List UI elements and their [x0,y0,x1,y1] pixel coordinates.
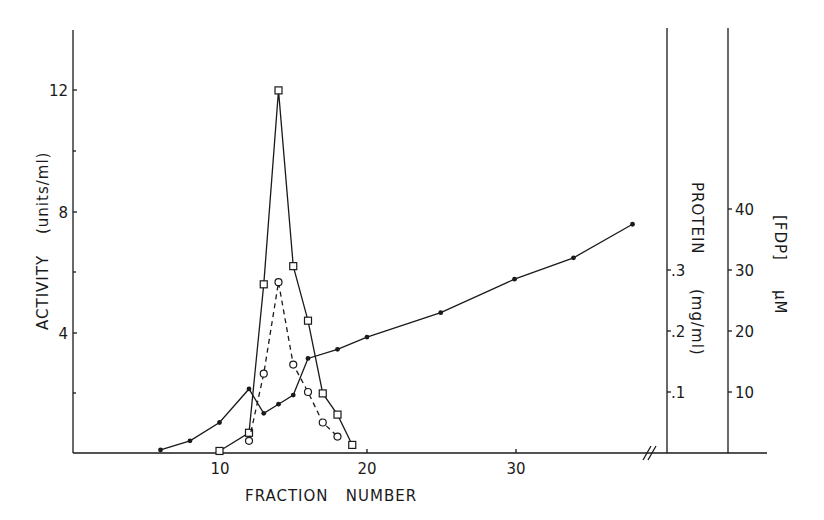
fdp-title-main: [FDP] [771,215,789,261]
circle-marker-icon [305,389,312,396]
series-fdp [158,222,635,453]
protein-tick-labels: .1 .2 .3 [671,262,685,402]
circle-marker-icon [290,361,297,368]
protein-title-main: PROTEIN [688,182,706,255]
square-marker-icon [349,441,356,448]
circle-marker-icon [260,370,267,377]
circle-marker-icon [334,433,341,440]
circle-marker-icon [319,419,326,426]
square-marker-icon [305,317,312,324]
dot-marker-icon [261,411,266,416]
square-marker-icon [319,390,326,397]
dot-marker-icon [306,356,311,361]
left-y-title: ACTIVITY (units/ml) [34,152,52,330]
x-tick-labels: 10 20 30 [210,460,525,478]
axes [73,28,767,460]
x-tick-20: 20 [357,460,376,478]
fdp-title-unit: µM [771,290,789,315]
chart: 12 8 4 10 20 30 .1 .2 .3 10 20 30 40 ACT… [0,0,824,520]
dot-marker-icon [438,310,443,315]
dot-marker-icon [247,387,252,392]
protein-tick-3: .3 [671,262,685,280]
dot-marker-icon [188,438,193,443]
dot-marker-icon [630,222,635,227]
dot-marker-icon [335,347,340,352]
protein-tick-2: .2 [671,323,685,341]
fdp-tick-30: 30 [735,262,754,280]
protein-tick-1: .1 [671,384,685,402]
protein-title-unit: (mg/ml) [688,289,706,356]
left-y-title-unit: (units/ml) [34,152,52,234]
left-y-title-main: ACTIVITY [34,255,52,330]
y-tick-4: 4 [58,325,68,343]
dot-marker-icon [217,420,222,425]
fdp-tick-10: 10 [735,384,754,402]
x-axis-title: FRACTION NUMBER [245,487,417,505]
circle-marker-icon [275,279,282,286]
series-line [220,90,353,451]
dot-marker-icon [291,393,296,398]
square-marker-icon [275,87,282,94]
dot-marker-icon [365,335,370,340]
series-layer [158,87,635,455]
x-tick-10: 10 [210,460,229,478]
y-tick-12: 12 [49,82,68,100]
protein-title: PROTEIN (mg/ml) [688,182,706,356]
series-protein [246,279,342,445]
square-marker-icon [334,411,341,418]
square-marker-icon [216,447,223,454]
fdp-tick-40: 40 [735,201,754,219]
fdp-title: [FDP] µM [771,215,789,315]
fdp-tick-20: 20 [735,323,754,341]
dot-marker-icon [158,448,163,453]
series-line [161,224,633,450]
dot-marker-icon [571,255,576,260]
fdp-tick-labels: 10 20 30 40 [735,201,754,402]
dot-marker-icon [512,277,517,282]
dot-marker-icon [276,402,281,407]
x-tick-30: 30 [506,460,525,478]
y-tick-8: 8 [58,204,68,222]
circle-marker-icon [246,437,253,444]
square-marker-icon [290,263,297,270]
square-marker-icon [260,281,267,288]
